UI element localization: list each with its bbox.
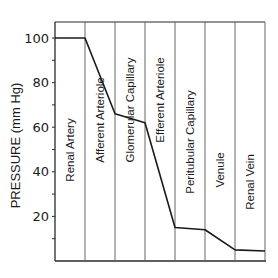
y-tick-label: 60 xyxy=(32,120,49,135)
segment-label: Renal Artery xyxy=(64,118,76,182)
segment-label: Renal Vein xyxy=(244,154,256,210)
segment-label: Efferent Arteriole xyxy=(154,57,166,142)
segment-label: Venule xyxy=(214,152,226,187)
segment-label: Glomerular Capillary xyxy=(124,57,136,162)
segment-label: Afferent Arteriole xyxy=(94,77,106,162)
y-axis: 20406080100 xyxy=(24,31,55,239)
segment-label: Peritubular Capillary xyxy=(184,90,196,194)
segment-labels: Renal ArteryAfferent ArterioleGlomerular… xyxy=(64,57,256,210)
y-axis-label: PRESSURE (mm Hg) xyxy=(8,83,23,209)
y-tick-label: 40 xyxy=(32,164,49,179)
y-tick-label: 100 xyxy=(24,31,49,46)
renal-pressure-chart: 20406080100 Renal ArteryAfferent Arterio… xyxy=(0,0,278,278)
y-tick-label: 20 xyxy=(32,209,49,224)
y-tick-label: 80 xyxy=(32,75,49,90)
